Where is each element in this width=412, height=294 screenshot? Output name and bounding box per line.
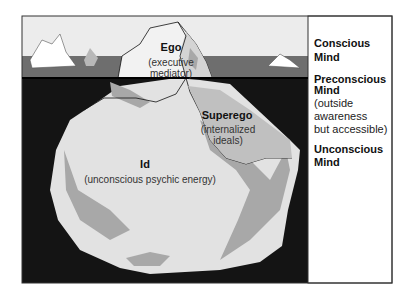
superego-subtitle-2: ideals) <box>188 135 268 146</box>
level-preconscious-desc-3: but accessible) <box>314 124 387 135</box>
level-preconscious-title-2: Mind <box>314 85 387 96</box>
level-conscious-title-2: Mind <box>314 52 370 63</box>
ego-subtitle-2: mediator) <box>126 68 216 79</box>
ego-subtitle-1: (executive <box>126 57 216 68</box>
id-subtitle: (unconscious psychic energy) <box>70 174 230 185</box>
level-preconscious: Preconscious Mind (outside awareness but… <box>314 74 387 135</box>
level-unconscious: Unconscious Mind <box>314 144 383 168</box>
level-preconscious-desc-1: (outside <box>314 98 387 109</box>
ego-label: Ego <box>136 42 206 53</box>
superego-label: Superego <box>192 110 262 121</box>
level-unconscious-title-1: Unconscious <box>314 144 383 155</box>
level-unconscious-title-2: Mind <box>314 157 383 168</box>
superego-subtitle-1: (internalized <box>188 124 268 135</box>
id-label: Id <box>110 159 180 170</box>
level-conscious: Conscious Mind <box>314 38 370 63</box>
level-preconscious-desc-2: awareness <box>314 111 387 122</box>
level-conscious-title-1: Conscious <box>314 38 370 49</box>
